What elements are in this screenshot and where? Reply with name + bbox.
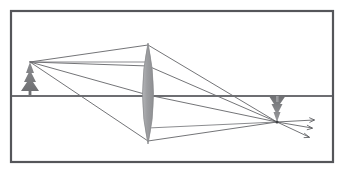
image-tree-trunk <box>276 96 279 102</box>
object-tree-trunk <box>29 90 32 96</box>
figure-background <box>0 0 345 172</box>
ray-diagram-canvas <box>0 0 345 172</box>
ray-diagram-figure <box>0 0 345 172</box>
image-focus-point <box>276 121 279 124</box>
